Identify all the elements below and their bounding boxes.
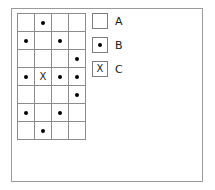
grid-cell bbox=[69, 32, 86, 50]
grid-cell bbox=[35, 104, 52, 122]
grid-cell bbox=[35, 50, 52, 68]
legend-swatch: X bbox=[92, 61, 108, 77]
dot-icon bbox=[24, 75, 28, 79]
grid-cell bbox=[18, 122, 35, 140]
grid-cell bbox=[69, 50, 86, 68]
dot-icon bbox=[58, 111, 62, 115]
x-icon: X bbox=[93, 62, 107, 76]
legend-item-b: B bbox=[92, 37, 123, 53]
grid-cell bbox=[69, 86, 86, 104]
grid-cell bbox=[35, 32, 52, 50]
legend-label: C bbox=[115, 64, 123, 75]
legend-label: B bbox=[115, 40, 123, 51]
grid-cell bbox=[18, 50, 35, 68]
x-icon: X bbox=[35, 68, 51, 85]
grid-cell bbox=[18, 68, 35, 86]
dot-icon bbox=[75, 57, 79, 61]
grid-cell bbox=[52, 14, 69, 32]
dot-icon bbox=[24, 39, 28, 43]
grid-cell bbox=[52, 122, 69, 140]
legend: ABXC bbox=[92, 13, 123, 85]
symbol-grid: X bbox=[17, 13, 86, 140]
grid-cell bbox=[69, 68, 86, 86]
grid-cell bbox=[52, 104, 69, 122]
grid-cell: X bbox=[35, 68, 52, 86]
grid-cell bbox=[52, 50, 69, 68]
dot-icon bbox=[58, 75, 62, 79]
dot-icon bbox=[24, 111, 28, 115]
grid-cell bbox=[69, 104, 86, 122]
grid-cell bbox=[35, 86, 52, 104]
dot-icon bbox=[41, 129, 45, 133]
grid-cell bbox=[18, 104, 35, 122]
legend-item-a: A bbox=[92, 13, 123, 29]
grid-cell bbox=[35, 14, 52, 32]
grid-cell bbox=[52, 86, 69, 104]
dot-icon bbox=[41, 21, 45, 25]
grid-cell bbox=[18, 14, 35, 32]
grid-cell bbox=[52, 68, 69, 86]
dot-icon bbox=[75, 75, 79, 79]
grid-cell bbox=[18, 32, 35, 50]
legend-swatch bbox=[92, 13, 108, 29]
legend-label: A bbox=[115, 16, 123, 27]
legend-item-c: XC bbox=[92, 61, 123, 77]
dot-icon bbox=[58, 39, 62, 43]
grid-cell bbox=[18, 86, 35, 104]
grid-cell bbox=[52, 32, 69, 50]
grid-cell bbox=[35, 122, 52, 140]
legend-swatch bbox=[92, 37, 108, 53]
dot-icon bbox=[98, 43, 102, 47]
grid-cell bbox=[69, 122, 86, 140]
grid-cell bbox=[69, 14, 86, 32]
figure-frame: X ABXC bbox=[11, 8, 203, 182]
dot-icon bbox=[75, 93, 79, 97]
